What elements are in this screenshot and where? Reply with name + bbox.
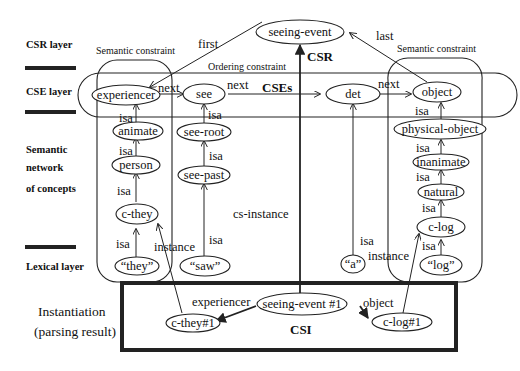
svg-text:“they”: “they”	[121, 259, 154, 273]
node-log: “log”	[420, 255, 462, 275]
node-inanimate: inanimate	[413, 154, 469, 170]
node-animate: animate	[113, 122, 163, 140]
svg-text:c-they#1: c-they#1	[171, 316, 215, 330]
edge-label-instance: instance	[368, 249, 409, 263]
svg-text:seeing-event #1: seeing-event #1	[263, 297, 342, 311]
layer-divider	[25, 245, 76, 249]
svg-text:person: person	[119, 158, 153, 172]
node-c-they: c-they	[116, 204, 158, 224]
node-see: see	[183, 84, 225, 104]
edge-label-isa: isa	[360, 234, 374, 248]
edge-label-isa: isa	[209, 233, 223, 247]
node-see-root: see-root	[177, 123, 231, 141]
node-natural: natural	[418, 184, 464, 200]
cses-label: CSEs	[262, 80, 292, 95]
node-object: object	[413, 82, 461, 102]
svg-text:animate: animate	[118, 124, 158, 138]
node-c-log: c-log	[417, 217, 465, 237]
edge-label-isa: isa	[416, 170, 430, 184]
edge-label-object: object	[363, 296, 394, 310]
node-see-past: see-past	[178, 166, 230, 184]
edge-instance	[403, 234, 419, 313]
node-det: det	[326, 84, 380, 104]
node-person: person	[112, 156, 160, 174]
svg-text:inanimate: inanimate	[416, 155, 466, 169]
edge-label-next-3: next	[378, 77, 400, 91]
edge-label-cs-instance: cs-instance	[233, 207, 289, 221]
semantic-constraint-label-right: Semantic constraint	[397, 43, 476, 54]
layer-divider	[25, 110, 76, 114]
csi-label: CSI	[290, 322, 312, 337]
layer-label-semantic-3: of concepts	[26, 183, 76, 194]
edge-label-instance: instance	[154, 240, 195, 254]
node-saw: “saw”	[180, 256, 230, 276]
svg-text:“a”: “a”	[345, 257, 362, 271]
node-c-they-1: c-they#1	[166, 314, 220, 332]
svg-text:seeing-event: seeing-event	[268, 25, 332, 39]
svg-text:see: see	[196, 87, 212, 101]
node-seeing-event: seeing-event	[256, 20, 344, 44]
edge-label-last: last	[376, 29, 394, 43]
svg-text:experiencer: experiencer	[97, 88, 156, 102]
edge-label-next-1: next	[158, 81, 180, 95]
svg-text:natural: natural	[424, 185, 459, 199]
edge-label-isa: isa	[208, 108, 222, 122]
node-c-log-1: c-log#1	[372, 313, 432, 331]
layer-divider	[25, 66, 76, 70]
ordering-constraint-label: Ordering constraint	[208, 61, 286, 72]
edge-label-isa: isa	[415, 104, 429, 118]
edge-label-first: first	[198, 37, 219, 51]
svg-text:see-past: see-past	[184, 168, 225, 182]
node-they: “they”	[115, 257, 159, 275]
layer-label-csr: CSR layer	[26, 39, 73, 50]
node-a: “a”	[341, 255, 365, 273]
svg-text:see-root: see-root	[184, 125, 225, 139]
svg-text:physical-object: physical-object	[402, 122, 479, 136]
edge-label-isa: isa	[209, 149, 223, 163]
layer-label-semantic-1: Semantic	[26, 144, 68, 155]
edge-label-isa: isa	[117, 184, 131, 198]
svg-text:c-they: c-they	[121, 207, 153, 221]
svg-text:object: object	[422, 85, 453, 99]
semantic-constraint-label-left: Semantic constraint	[96, 45, 175, 56]
layer-label-lexical: Lexical layer	[26, 261, 84, 272]
svg-text:“saw”: “saw”	[190, 259, 221, 273]
svg-text:det: det	[345, 87, 361, 101]
node-physical-object: physical-object	[394, 119, 486, 139]
layer-label-parsing-result: (parsing result)	[34, 324, 116, 339]
edge-label-isa: isa	[116, 237, 130, 251]
edge-label-isa: isa	[422, 239, 436, 253]
layer-label-instantiation: Instantiation	[38, 304, 106, 319]
edge-label-experiencer: experiencer	[192, 295, 251, 309]
node-seeing-event-1: seeing-event #1	[257, 293, 347, 315]
csr-label: CSR	[307, 49, 334, 64]
edge-label-next-2: next	[227, 78, 249, 92]
diagram-canvas: CSR layer CSE layer Semantic network of …	[0, 0, 520, 371]
edge-instance	[158, 224, 182, 313]
edge-label-isa: isa	[422, 201, 436, 215]
layer-label-semantic-2: network	[26, 162, 63, 173]
edge-label-isa: isa	[416, 141, 430, 155]
layer-label-cse: CSE layer	[26, 86, 72, 97]
svg-text:c-log#1: c-log#1	[383, 315, 421, 329]
svg-text:c-log: c-log	[428, 220, 454, 234]
svg-text:“log”: “log”	[427, 258, 454, 272]
node-experiencer: experiencer	[92, 85, 160, 105]
